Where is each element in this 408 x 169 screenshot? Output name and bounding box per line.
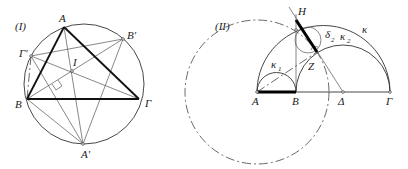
label-g2: Γ [385, 95, 393, 107]
figure-1: (I) A B' Γ' I B Γ A' [15, 12, 152, 160]
circumcircle [24, 24, 144, 144]
label-bp: B' [127, 29, 137, 41]
label-gp: Γ' [18, 47, 28, 59]
label-d2: δ 2 [325, 28, 335, 44]
label-ap: A' [80, 148, 91, 160]
point-ap [82, 143, 85, 146]
segment-bp-ap [83, 39, 123, 144]
label-k1: κ 1 [271, 58, 282, 73]
point-gp [30, 55, 33, 58]
figure-1-title: (I) [15, 20, 26, 33]
label-a2: A [251, 95, 259, 107]
segment-hz [296, 20, 317, 52]
svg-text:1: 1 [278, 65, 282, 73]
point-i [71, 70, 74, 73]
point-tangent [295, 29, 298, 32]
label-b2: B [292, 95, 299, 107]
label-z: Z [308, 60, 315, 72]
label-a: A [58, 12, 66, 24]
semicircle-k [257, 26, 390, 92]
label-k: κ [362, 23, 368, 35]
point-a [256, 91, 259, 94]
label-delta: Δ [337, 95, 344, 107]
svg-text:κ: κ [340, 30, 346, 42]
segment-b-ap [27, 99, 83, 144]
label-b: B [15, 98, 22, 110]
point-bp [122, 38, 125, 41]
label-i: I [72, 56, 78, 68]
label-g: Γ [144, 97, 152, 109]
semicircle-k1 [257, 73, 296, 93]
point-g [389, 91, 392, 94]
label-h: H [297, 5, 307, 17]
svg-text:κ: κ [271, 58, 277, 70]
point-delta [342, 91, 345, 94]
figure-2: (II) H Z A B Δ Γ κ κ [185, 5, 393, 164]
segment-a-ap [64, 27, 83, 144]
svg-text:2: 2 [347, 37, 351, 45]
svg-text:2: 2 [331, 36, 335, 44]
label-k2: κ 2 [340, 30, 351, 45]
right-angle-mark [52, 80, 62, 90]
diagram-canvas: (I) A B' Γ' I B Γ A' (II) [0, 0, 408, 169]
